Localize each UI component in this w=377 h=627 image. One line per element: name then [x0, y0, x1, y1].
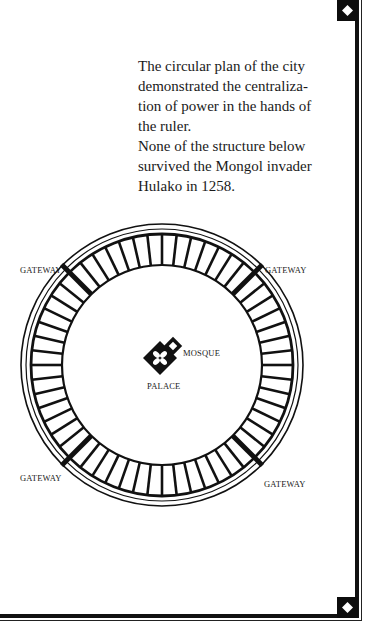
label-gateway-sw: GATEWAY [20, 473, 62, 483]
city-plan-diagram [0, 0, 377, 627]
label-gateway-se: GATEWAY [264, 479, 306, 489]
label-gateway-ne: GATEWAY [265, 265, 307, 275]
label-palace: PALACE [147, 381, 180, 391]
label-gateway-nw: GATEWAY [20, 265, 62, 275]
label-mosque: MOSQUE [183, 348, 220, 358]
